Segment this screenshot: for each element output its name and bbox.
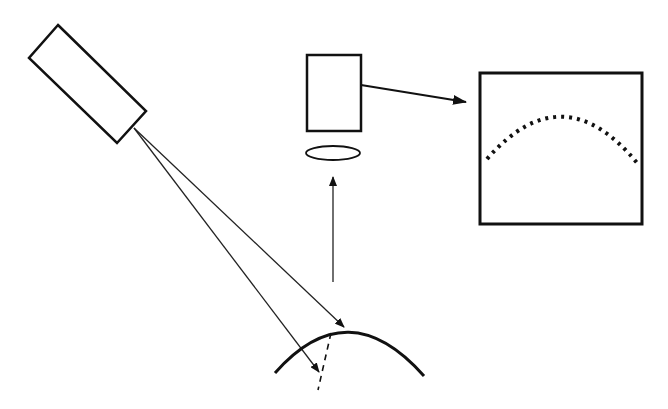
display-screen xyxy=(480,73,642,224)
lens xyxy=(306,146,360,160)
curved-surface xyxy=(275,332,424,376)
camera xyxy=(307,55,361,131)
camera-to-screen-arrow xyxy=(361,85,466,102)
incident-ray-2 xyxy=(134,128,319,372)
diagram-canvas xyxy=(0,0,668,409)
subsurface-dashed-line xyxy=(318,333,331,390)
light-source xyxy=(29,25,146,143)
